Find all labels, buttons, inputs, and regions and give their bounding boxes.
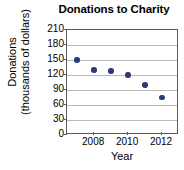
y-tick-mark (64, 134, 67, 135)
chart-title: Donations to Charity (44, 2, 184, 16)
gridline (67, 45, 177, 46)
y-tick-label: 120 (38, 69, 64, 79)
data-point (108, 68, 113, 73)
x-tick-mark (93, 132, 94, 135)
data-point (74, 57, 79, 62)
x-tick-label: 2010 (112, 136, 142, 148)
y-axis-title-line2: (thousands of dollars) (19, 9, 32, 115)
y-axis-ticks: 0306090120150180210 (36, 29, 64, 134)
data-point (159, 95, 164, 100)
plot-area (66, 29, 178, 134)
chart-figure: Donations to Charity Donations (thousand… (0, 0, 184, 170)
x-axis-ticks: 200820102012 (66, 136, 178, 150)
data-point (142, 82, 147, 87)
y-tick-label: 90 (38, 84, 64, 94)
y-tick-label: 150 (38, 54, 64, 64)
gridline (67, 120, 177, 121)
y-tick-label: 0 (38, 129, 64, 139)
gridline (67, 90, 177, 91)
gridline (67, 60, 177, 61)
gridline (67, 105, 177, 106)
x-tick-mark (127, 132, 128, 135)
x-axis-title: Year (66, 150, 178, 162)
x-tick-label: 2012 (146, 136, 176, 148)
gridline (67, 75, 177, 76)
y-tick-label: 210 (38, 24, 64, 34)
x-tick-mark (161, 132, 162, 135)
x-tick-label: 2008 (78, 136, 108, 148)
y-tick-label: 180 (38, 39, 64, 49)
y-axis-title: Donations (thousands of dollars) (0, 14, 38, 110)
data-point (91, 67, 96, 72)
y-tick-label: 30 (38, 114, 64, 124)
y-axis-title-line1: Donations (6, 9, 19, 115)
data-point (125, 72, 130, 77)
y-tick-label: 60 (38, 99, 64, 109)
